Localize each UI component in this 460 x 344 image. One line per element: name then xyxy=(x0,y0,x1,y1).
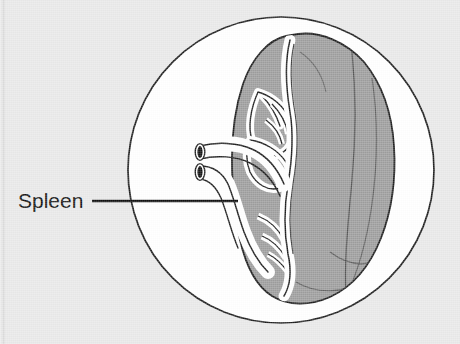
splenic-artery-lumen xyxy=(197,146,202,158)
splenic-vein-stump xyxy=(195,164,205,181)
spleen-label: Spleen xyxy=(18,189,83,212)
spleen-figure: Spleen xyxy=(0,0,460,344)
splenic-vein-lumen xyxy=(197,166,202,178)
splenic-artery-stump xyxy=(195,144,205,161)
spleen-illustration: Spleen xyxy=(0,0,460,344)
